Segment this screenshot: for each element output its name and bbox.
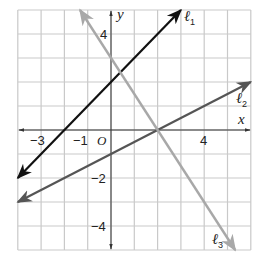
- x-axis-label: x: [237, 111, 245, 127]
- x-tick-label-neg1: −1: [73, 133, 88, 148]
- svg-text:2: 2: [242, 99, 247, 109]
- line-label-l1: ℓ 1: [184, 8, 195, 27]
- x-tick-label-neg3: −3: [30, 133, 45, 148]
- svg-text:3: 3: [218, 240, 223, 250]
- y-tick-label-4: 4: [100, 27, 107, 42]
- labels: y x O −3 −1 4 4 −2 −4 ℓ 1 ℓ 2 ℓ 3: [30, 6, 247, 250]
- y-tick-label-neg2: −2: [91, 171, 106, 186]
- svg-text:1: 1: [190, 17, 195, 27]
- y-tick-label-neg4: −4: [91, 219, 106, 234]
- y-axis-label: y: [115, 6, 124, 22]
- coordinate-graph: y x O −3 −1 4 4 −2 −4 ℓ 1 ℓ 2 ℓ 3: [0, 0, 261, 259]
- x-tick-label-4: 4: [200, 133, 207, 148]
- origin-label: O: [97, 133, 107, 148]
- line-label-l3: ℓ 3: [212, 231, 223, 250]
